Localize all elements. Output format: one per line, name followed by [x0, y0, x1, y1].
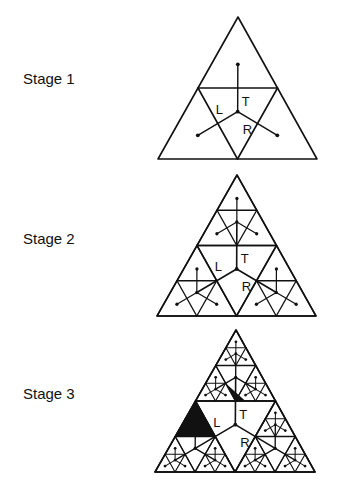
- edge-line: [205, 460, 215, 466]
- node-dot: [175, 303, 178, 306]
- node-dot: [255, 232, 258, 235]
- label-left: L: [215, 259, 222, 274]
- edge-line: [197, 293, 217, 305]
- node-dot: [284, 465, 287, 468]
- edge-line: [175, 460, 185, 466]
- node-dot: [224, 358, 227, 361]
- node-dot: [264, 429, 267, 432]
- node-dot: [215, 232, 218, 235]
- node-dot: [254, 447, 257, 450]
- edge-line: [216, 389, 226, 395]
- node-dot: [224, 465, 227, 468]
- edge-line: [256, 389, 266, 395]
- node-dot: [244, 394, 247, 397]
- label-left: L: [213, 415, 220, 430]
- edge-line: [285, 460, 295, 466]
- edge-line: [226, 354, 236, 360]
- node-dot: [204, 394, 207, 397]
- node-dot: [214, 376, 217, 379]
- node-dot: [304, 465, 307, 468]
- node-dot: [254, 376, 257, 379]
- label-right: R: [243, 122, 252, 137]
- node-dot: [174, 447, 177, 450]
- node-dot: [264, 394, 267, 397]
- label-right: R: [242, 279, 251, 294]
- node-dot: [294, 447, 297, 450]
- label-top: T: [242, 94, 250, 109]
- edge-line: [275, 425, 285, 431]
- label-top: T: [239, 407, 247, 422]
- node-dot: [195, 267, 198, 270]
- node-dot: [233, 423, 237, 427]
- label-top: T: [241, 251, 249, 266]
- edge-line: [295, 460, 305, 466]
- edge-line: [236, 354, 246, 360]
- node-dot: [204, 465, 207, 468]
- node-dot: [264, 465, 267, 468]
- node-dot: [275, 133, 279, 137]
- edge-line: [177, 293, 197, 305]
- node-dot: [236, 62, 240, 66]
- edge-line: [265, 425, 275, 431]
- node-dot: [236, 110, 240, 114]
- node-dot: [274, 411, 277, 414]
- node-dot: [235, 267, 239, 271]
- node-dot: [235, 197, 238, 200]
- edge-line: [165, 460, 175, 466]
- node-dot: [214, 447, 217, 450]
- label-left: L: [216, 102, 223, 117]
- sierpinski-tree-diagram: TLRTLRTLR: [0, 0, 337, 492]
- node-dot: [164, 465, 167, 468]
- edge-line: [255, 460, 265, 466]
- filled-triangle: [175, 401, 215, 437]
- node-dot: [244, 358, 247, 361]
- edge-line: [276, 293, 296, 305]
- edge-line: [217, 222, 237, 234]
- node-dot: [215, 303, 218, 306]
- edge-line: [245, 460, 255, 466]
- node-dot: [196, 133, 200, 137]
- node-dot: [224, 394, 227, 397]
- node-dot: [235, 340, 238, 343]
- node-dot: [284, 429, 287, 432]
- edge-line: [246, 389, 256, 395]
- node-dot: [184, 465, 187, 468]
- edge-line: [206, 389, 216, 395]
- edge-line: [215, 460, 225, 466]
- label-right: R: [240, 435, 249, 450]
- edge-line: [237, 222, 257, 234]
- edge-line: [256, 293, 276, 305]
- node-dot: [275, 267, 278, 270]
- node-dot: [244, 465, 247, 468]
- node-dot: [255, 303, 258, 306]
- node-dot: [295, 303, 298, 306]
